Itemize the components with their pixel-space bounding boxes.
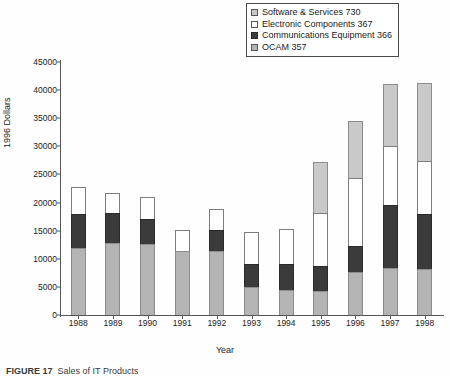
bar-segment-communications-equipment-366[interactable] [105, 213, 120, 243]
legend-label-electronic-components: Electronic Components 367 [262, 19, 373, 31]
bar-segment-ocam-357[interactable] [348, 272, 363, 315]
plot-area: 0500010000150002000025000300003500040000… [61, 62, 442, 315]
y-tick-label: 0 [52, 311, 57, 320]
bar-segment-electronic-components-367[interactable] [279, 229, 294, 264]
bar-segment-ocam-357[interactable] [279, 290, 294, 315]
bar-segment-software-services-730[interactable] [348, 121, 363, 178]
bar-segment-software-services-730[interactable] [313, 162, 328, 213]
y-tick-mark [57, 286, 61, 287]
figure-container: Software & Services 730 Electronic Compo… [0, 0, 450, 376]
bar-segment-ocam-357[interactable] [209, 251, 224, 315]
y-tick-label: 25000 [33, 170, 57, 179]
bar-segment-communications-equipment-366[interactable] [348, 246, 363, 271]
figure-caption-label: FIGURE 17 [6, 366, 53, 376]
y-tick-mark [57, 90, 61, 91]
y-tick-label: 15000 [33, 226, 57, 235]
bar-segment-ocam-357[interactable] [175, 251, 190, 315]
bar-segment-electronic-components-367[interactable] [417, 161, 432, 214]
y-tick-label: 45000 [33, 58, 57, 67]
bar-segment-communications-equipment-366[interactable] [417, 214, 432, 269]
bar-1989[interactable] [105, 193, 120, 315]
bar-segment-communications-equipment-366[interactable] [383, 205, 398, 268]
bar-segment-electronic-components-367[interactable] [71, 187, 86, 214]
legend-swatch-software-services-icon [251, 9, 258, 16]
bar-1998[interactable] [417, 83, 432, 315]
y-tick-mark [57, 174, 61, 175]
y-tick-mark [57, 315, 61, 316]
legend-item-software-services: Software & Services 730 [251, 7, 392, 19]
y-tick-mark [57, 230, 61, 231]
bar-1994[interactable] [279, 229, 294, 315]
bar-segment-software-services-730[interactable] [383, 84, 398, 146]
x-tick-label-1998: 1998 [405, 318, 445, 328]
bar-segment-electronic-components-367[interactable] [175, 230, 190, 251]
bar-segment-ocam-357[interactable] [71, 248, 86, 315]
bar-segment-communications-equipment-366[interactable] [279, 264, 294, 290]
legend-label-software-services: Software & Services 730 [262, 7, 361, 19]
bar-segment-electronic-components-367[interactable] [383, 146, 398, 205]
bar-segment-electronic-components-367[interactable] [348, 178, 363, 247]
bar-1995[interactable] [313, 162, 328, 315]
bar-segment-communications-equipment-366[interactable] [140, 219, 155, 244]
bar-segment-ocam-357[interactable] [140, 244, 155, 315]
bar-1997[interactable] [383, 84, 398, 315]
bar-segment-electronic-components-367[interactable] [209, 209, 224, 229]
bar-segment-ocam-357[interactable] [313, 291, 328, 315]
bar-1996[interactable] [348, 121, 363, 316]
y-tick-mark [57, 146, 61, 147]
legend-item-communications-equipment: Communications Equipment 366 [251, 30, 392, 42]
y-tick-mark [57, 62, 61, 63]
bar-segment-software-services-730[interactable] [417, 83, 432, 161]
bar-segment-ocam-357[interactable] [105, 243, 120, 315]
y-tick-label: 40000 [33, 86, 57, 95]
y-tick-label: 35000 [33, 114, 57, 123]
bar-segment-communications-equipment-366[interactable] [313, 266, 328, 291]
y-tick-label: 5000 [38, 283, 57, 292]
y-tick-label: 20000 [33, 198, 57, 207]
bar-segment-electronic-components-367[interactable] [140, 197, 155, 219]
y-tick-label: 30000 [33, 142, 57, 151]
bar-1993[interactable] [244, 232, 259, 315]
bar-segment-communications-equipment-366[interactable] [244, 264, 259, 287]
y-tick-mark [57, 118, 61, 119]
bar-segment-electronic-components-367[interactable] [313, 213, 328, 266]
y-tick-mark [57, 258, 61, 259]
legend-item-ocam: OCAM 357 [251, 42, 392, 54]
figure-caption-text: Sales of IT Products [58, 366, 139, 376]
chart-legend: Software & Services 730 Electronic Compo… [246, 3, 399, 57]
y-tick-mark [57, 202, 61, 203]
bar-segment-ocam-357[interactable] [417, 269, 432, 315]
bar-segment-communications-equipment-366[interactable] [209, 230, 224, 252]
legend-item-electronic-components: Electronic Components 367 [251, 19, 392, 31]
y-tick-label: 10000 [33, 255, 57, 264]
bar-1991[interactable] [175, 230, 190, 315]
bar-segment-communications-equipment-366[interactable] [71, 214, 86, 247]
legend-swatch-communications-equipment-icon [251, 32, 258, 39]
y-axis-title: 1996 Dollars [2, 97, 12, 148]
bar-segment-ocam-357[interactable] [383, 268, 398, 315]
bar-1988[interactable] [71, 187, 86, 315]
bar-1990[interactable] [140, 197, 155, 315]
legend-label-communications-equipment: Communications Equipment 366 [262, 30, 392, 42]
legend-swatch-ocam-icon [251, 44, 258, 51]
bar-segment-ocam-357[interactable] [244, 287, 259, 315]
legend-swatch-electronic-components-icon [251, 21, 258, 28]
bar-1992[interactable] [209, 209, 224, 315]
x-axis-title: Year [0, 345, 450, 355]
legend-label-ocam: OCAM 357 [262, 42, 307, 54]
bar-segment-electronic-components-367[interactable] [244, 232, 259, 264]
bar-segment-electronic-components-367[interactable] [105, 193, 120, 213]
figure-caption: FIGURE 17 Sales of IT Products [6, 366, 138, 376]
